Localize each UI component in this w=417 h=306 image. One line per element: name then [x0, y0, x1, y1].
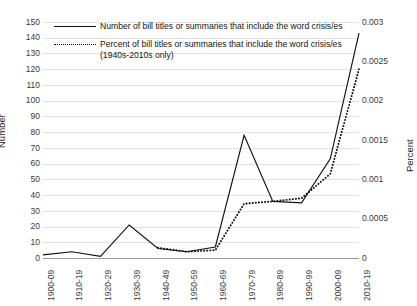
x-axis-line	[43, 258, 359, 259]
chart-legend: Number of bill titles or summaries that …	[54, 21, 354, 63]
x-axis-tick-label: 2000-09	[334, 270, 343, 301]
solid-line-icon	[54, 26, 96, 27]
y-axis-left-tick-label: 80	[2, 128, 40, 137]
x-axis-ticks: 1900-091910-191920-291930-391940-491950-…	[43, 261, 359, 306]
y-axis-left-tick-label: 110	[2, 81, 40, 90]
x-axis-tick-label: 1980-89	[276, 270, 285, 301]
x-axis-tick-label: 1900-09	[47, 270, 56, 301]
legend-label-percent: Percent of bill titles or summaries that…	[100, 39, 342, 50]
y-axis-left-tick-label: 140	[2, 33, 40, 42]
y-axis-left-tick-label: 130	[2, 49, 40, 58]
x-axis-tick-label: 1970-79	[248, 270, 257, 301]
x-axis-tick-label: 1910-19	[75, 270, 84, 301]
chart-container: 0102030405060708090100110120130140150 00…	[0, 0, 417, 306]
y-axis-right-tick-label: 0.003	[362, 18, 383, 27]
y-axis-right-tick-label: 0.0015	[362, 136, 388, 145]
y-axis-left-tick-label: 100	[2, 96, 40, 105]
y-axis-right-tick-label: 0.001	[362, 175, 383, 184]
y-axis-right-tick-label: 0.0025	[362, 57, 388, 66]
y-axis-right-ticks: 00.00050.0010.00150.0020.00250.003	[360, 0, 416, 258]
x-axis-tick-label: 1930-39	[133, 270, 142, 301]
y-axis-left-tick-label: 30	[2, 207, 40, 216]
dotted-line-icon	[54, 44, 96, 45]
legend-label-number: Number of bill titles or summaries that …	[100, 21, 343, 32]
y-axis-right-tick-label: 0.002	[362, 96, 383, 105]
y-axis-right-tick-label: 0	[362, 254, 367, 263]
y-axis-right-title: Percent	[404, 139, 415, 172]
y-axis-left-title: Number	[0, 114, 7, 148]
y-axis-left-tick-label: 60	[2, 159, 40, 168]
legend-item-number: Number of bill titles or summaries that …	[54, 21, 354, 35]
x-axis-tick-label: 1950-59	[190, 270, 199, 301]
legend-item-percent: Percent of bill titles or summaries that…	[54, 39, 354, 63]
x-axis-tick-label: 1990-99	[305, 270, 314, 301]
y-axis-left-tick-label: 40	[2, 191, 40, 200]
y-axis-left-tick-label: 20	[2, 222, 40, 231]
x-axis-tick-label: 2010-19	[363, 270, 372, 301]
x-axis-tick-label: 1940-49	[162, 270, 171, 301]
y-axis-left-tick-label: 120	[2, 65, 40, 74]
y-axis-left-tick-label: 150	[2, 18, 40, 27]
number-series-line	[43, 33, 359, 256]
y-axis-right-tick-label: 0.0005	[362, 214, 388, 223]
y-axis-left-tick-label: 50	[2, 175, 40, 184]
y-axis-left-tick-label: 0	[2, 254, 40, 263]
y-axis-left-tick-label: 70	[2, 144, 40, 153]
y-axis-left-tick-label: 10	[2, 238, 40, 247]
x-axis-tick-label: 1960-69	[219, 270, 228, 301]
x-axis-tick-label: 1920-29	[104, 270, 113, 301]
y-axis-left-tick-label: 90	[2, 112, 40, 121]
legend-label-percent-sub: (1940s-2010s only)	[100, 50, 174, 61]
